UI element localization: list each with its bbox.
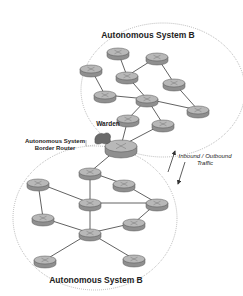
router-icon [107,48,129,60]
upper-as-label: Autonomous System B [101,30,195,40]
router-icon [123,219,145,231]
router-icon [80,65,102,77]
router-icon [32,214,54,226]
warden-label: Warden [96,120,120,127]
inbound-arrow-icon [168,151,175,172]
router-icon [79,199,101,211]
router-icon [116,72,138,84]
warden-icon [95,133,111,144]
router-icon [113,180,135,192]
router-icon [146,53,168,65]
router-icon [136,95,158,107]
router-icon [152,120,174,132]
router-icon [34,256,56,268]
outbound-arrow-icon [178,162,185,184]
traffic-label-line1: Inbound / Outbound [178,153,232,159]
border-router-pointer-icon [86,140,95,146]
router-icon [146,199,168,211]
border-router-label-line2: Border Router [35,145,76,151]
router-icon [79,229,101,241]
border-router-label-line1: Autonomous System [25,138,85,144]
router-icon [123,255,145,267]
router-icon [27,179,49,191]
lower-as-label: Autonomous System B [49,275,143,285]
router-icon [79,168,101,180]
border-router-icon [105,140,137,158]
network-diagram: Autonomous System B Autonomous System B … [0,0,243,296]
router-icon [117,115,139,127]
router-icon [163,79,185,91]
router-icon [187,106,209,118]
router-icon [94,91,116,103]
traffic-label-line2: Traffic [197,160,213,166]
